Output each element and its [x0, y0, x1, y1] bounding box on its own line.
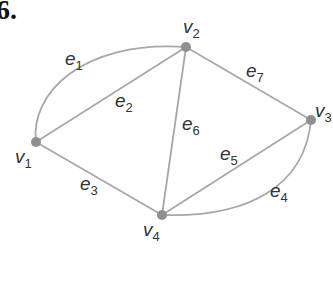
- edge-e7: [186, 47, 311, 120]
- vertex-v2: [181, 42, 191, 52]
- label-e5: e5: [220, 143, 238, 168]
- label-e2: e2: [115, 90, 133, 115]
- vertex-v4: [157, 210, 167, 220]
- label-v2: v2: [183, 16, 200, 41]
- label-e4: e4: [270, 180, 288, 205]
- label-v1: v1: [15, 146, 32, 171]
- label-e6: e6: [182, 113, 200, 138]
- label-e7: e7: [246, 60, 264, 85]
- label-e1: e1: [65, 48, 83, 73]
- edge-e2: [36, 47, 186, 142]
- vertex-v1: [31, 137, 41, 147]
- label-v4: v4: [143, 219, 160, 244]
- edge-e3: [36, 142, 162, 215]
- label-v3: v3: [315, 100, 332, 125]
- graph-diagram: v1 v2 v3 v4 e1 e2 e3 e4 e5 e6 e7: [0, 0, 333, 284]
